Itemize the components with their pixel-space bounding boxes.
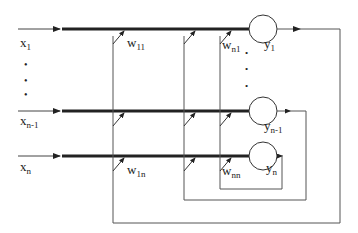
weight-label-wnn: wnn — [222, 164, 240, 180]
ellipsis-dot: • — [245, 49, 248, 58]
output-label-yn: yn — [266, 161, 277, 177]
weight-label-w1n: w1n — [127, 163, 145, 179]
ellipsis-dot: • — [24, 60, 28, 70]
weight-label-w11: w11 — [127, 36, 145, 52]
feedback-lines — [113, 29, 340, 223]
recurrent-network-diagram: x1 xn-1 xn • • • • • • y1 yn-1 yn w11 wn… — [0, 0, 358, 233]
input-label-x1: x1 — [20, 36, 31, 52]
input-label-xn: xn — [20, 160, 31, 176]
ellipsis-dot: • — [24, 76, 28, 86]
ellipsis-dot: • — [245, 65, 248, 74]
input-label-xn-1: xn-1 — [20, 114, 39, 130]
ellipsis-dot: • — [24, 90, 28, 100]
diagram-graphics — [0, 0, 358, 233]
weight-label-wn1: wn1 — [222, 38, 240, 54]
weight-connectors — [113, 31, 231, 171]
ellipsis-dot: • — [245, 82, 248, 91]
output-label-yn-1: yn-1 — [264, 119, 283, 135]
output-label-y1: y1 — [264, 37, 275, 53]
